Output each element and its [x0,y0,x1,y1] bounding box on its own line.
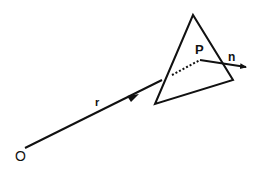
diagram-canvas [0,0,260,170]
origin-label: O [15,149,26,163]
normal-vector [200,60,246,67]
ray-arrow-icon [127,94,139,102]
triangle [155,15,233,104]
point-label: P [195,43,204,56]
normal-label: n [228,51,235,63]
ray-line [25,80,162,148]
hidden-ray-segment [172,60,200,75]
ray-label: r [95,97,99,108]
